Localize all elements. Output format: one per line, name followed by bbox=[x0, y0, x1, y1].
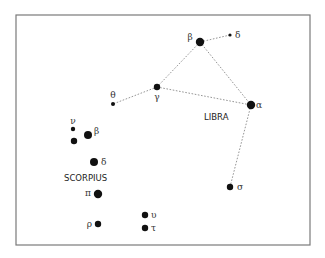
star-sco-beta2 bbox=[71, 138, 77, 144]
constellation-line-lib-beta-lib-gamma bbox=[157, 42, 200, 87]
star-sco-delta bbox=[90, 158, 98, 166]
star-label-lib-theta: θ bbox=[110, 90, 115, 100]
star-sco-beta1 bbox=[84, 131, 92, 139]
star-sco-tau bbox=[142, 225, 148, 231]
star-lib-theta bbox=[111, 102, 115, 106]
star-label-lib-gamma: γ bbox=[154, 92, 159, 102]
star-sco-upsilon bbox=[142, 212, 148, 218]
constellation-line-lib-beta-lib-alpha bbox=[200, 42, 251, 105]
star-sco-nu bbox=[71, 127, 75, 131]
star-sco-rho bbox=[95, 221, 101, 227]
constellation-label-libra: LIBRA bbox=[204, 112, 229, 122]
constellation-lines bbox=[113, 35, 251, 187]
star-chart-canvas: βδγθασνβδπρυτ LIBRASCORPIUS bbox=[0, 0, 325, 258]
constellation-line-lib-delta-lib-beta bbox=[200, 35, 230, 42]
star-lib-sigma bbox=[227, 184, 233, 190]
star-label-sco-nu: ν bbox=[70, 116, 75, 126]
star-label-sco-delta: δ bbox=[101, 157, 106, 167]
constellation-label-scorpius: SCORPIUS bbox=[64, 173, 107, 183]
star-label-sco-rho: ρ bbox=[87, 219, 92, 229]
star-label-lib-beta: β bbox=[187, 32, 192, 42]
constellation-line-lib-gamma-lib-alpha bbox=[157, 87, 251, 105]
star-label-sco-pi: π bbox=[85, 188, 91, 198]
constellation-line-lib-alpha-lib-sigma bbox=[230, 105, 251, 187]
chart-frame bbox=[16, 15, 310, 245]
star-label-lib-delta: δ bbox=[235, 30, 240, 40]
star-chart: βδγθασνβδπρυτ LIBRASCORPIUS bbox=[0, 0, 325, 258]
star-lib-alpha bbox=[247, 101, 255, 109]
constellation-labels: LIBRASCORPIUS bbox=[64, 112, 229, 183]
star-sco-pi bbox=[94, 190, 102, 198]
star-lib-gamma bbox=[154, 84, 160, 90]
star-label-lib-sigma: σ bbox=[237, 182, 243, 192]
star-labels: βδγθασνβδπρυτ bbox=[70, 30, 262, 233]
star-label-sco-upsilon: υ bbox=[151, 210, 157, 220]
star-lib-delta bbox=[228, 33, 231, 36]
star-label-sco-tau: τ bbox=[151, 223, 156, 233]
star-label-lib-alpha: α bbox=[256, 100, 262, 110]
star-lib-beta bbox=[196, 38, 204, 46]
constellation-line-lib-gamma-lib-theta bbox=[113, 87, 157, 104]
star-label-sco-beta1: β bbox=[94, 126, 99, 136]
